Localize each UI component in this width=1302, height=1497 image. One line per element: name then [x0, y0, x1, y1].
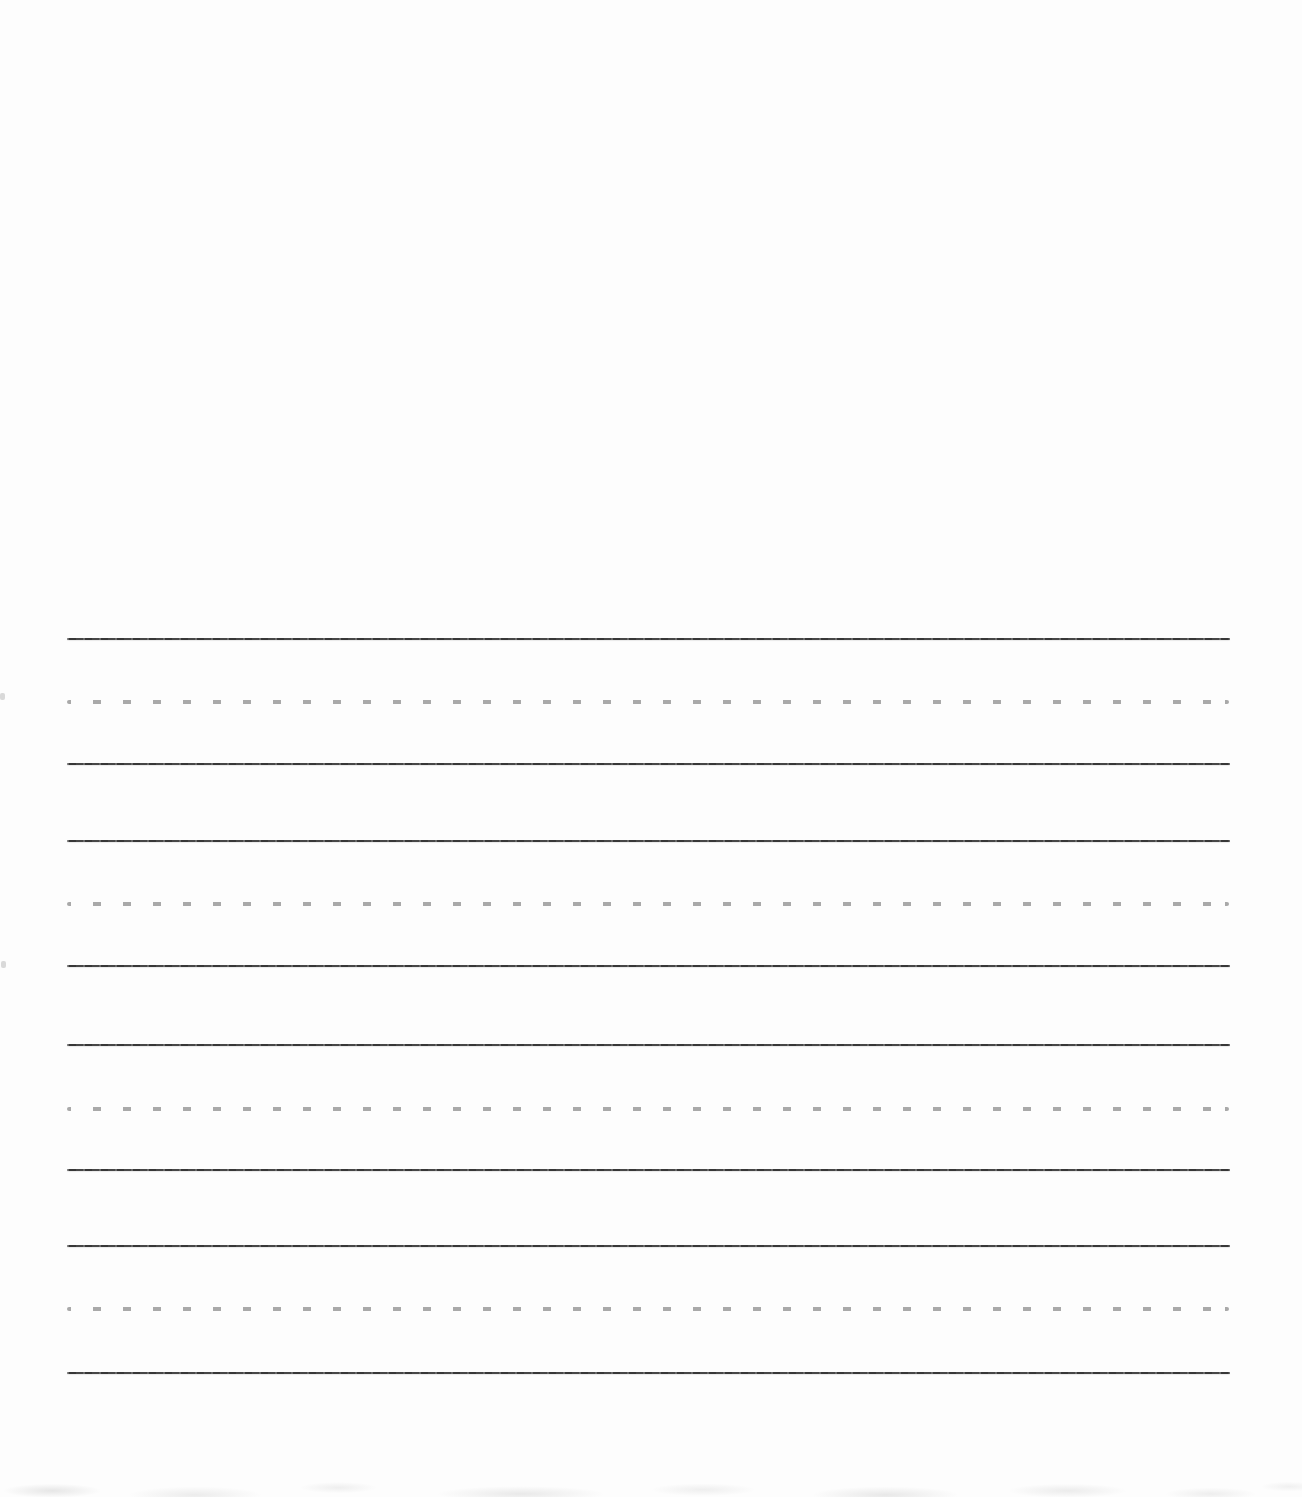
row-1-top-line: [67, 638, 1230, 640]
row-2-baseline: [67, 965, 1230, 967]
row-1-dashed-midline: [67, 700, 1229, 704]
row-3-top-line: [67, 1044, 1230, 1046]
row-3-baseline: [67, 1169, 1230, 1171]
left-edge-speck-1: [0, 693, 5, 700]
worksheet-page: [0, 0, 1302, 1497]
row-2-top-line: [67, 840, 1230, 842]
row-4-baseline: [67, 1372, 1230, 1374]
left-edge-speck-2: [1, 961, 6, 968]
row-4-dashed-midline: [67, 1307, 1229, 1311]
row-2-dashed-midline: [67, 902, 1229, 906]
row-3-dashed-midline: [67, 1107, 1229, 1111]
row-4-top-line: [67, 1245, 1230, 1247]
row-1-baseline: [67, 763, 1230, 765]
paper-bottom-edge-texture: [0, 1445, 1302, 1497]
